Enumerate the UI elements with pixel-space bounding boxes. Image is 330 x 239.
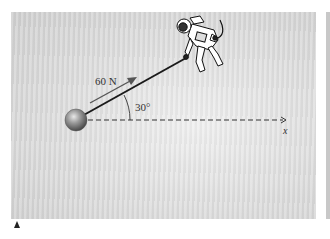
force-label: 60 N — [95, 75, 117, 87]
angle-arc — [124, 95, 130, 120]
rope — [82, 58, 186, 116]
force-diagram: x 30° 60 N — [0, 0, 330, 239]
ball — [65, 109, 87, 131]
x-axis — [80, 117, 286, 123]
x-axis-label: x — [282, 125, 288, 136]
figure-marker-icon — [14, 221, 20, 228]
angle-label: 30° — [135, 101, 150, 113]
astronaut-icon — [177, 16, 223, 72]
